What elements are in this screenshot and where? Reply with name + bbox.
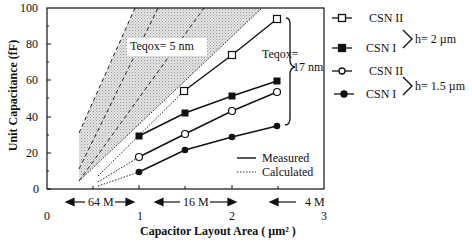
gen-4m-label: 4 M xyxy=(305,195,325,210)
y-tick-40: 40 xyxy=(26,110,38,125)
y-tick-20: 20 xyxy=(26,146,38,161)
y-axis-title: Unit Capacitance (fF) xyxy=(6,31,21,161)
legend-markers xyxy=(332,15,354,98)
x-tick-2: 2 xyxy=(229,209,235,224)
legend-group-h2: h= 2 µm xyxy=(415,32,456,47)
y-tick-0: 0 xyxy=(33,182,39,197)
x-tick-0: 0 xyxy=(44,209,50,224)
x-tick-1: 1 xyxy=(137,209,143,224)
x-ticks xyxy=(93,185,278,189)
legend-csn1-h15: CSN I xyxy=(366,87,396,102)
legend-csn2-h15: CSN II xyxy=(369,64,403,79)
y-tick-80: 80 xyxy=(26,37,38,52)
y-tick-100: 100 xyxy=(20,1,38,16)
legend-csn1-h2: CSN I xyxy=(366,41,396,56)
legend-group-h15: h= 1.5 µm xyxy=(415,79,465,94)
gen-64m-label: 64 M xyxy=(88,195,114,210)
measured-label: Measured xyxy=(262,151,309,166)
legend-braces xyxy=(403,30,412,95)
chart-canvas xyxy=(0,0,472,244)
x-tick-3: 3 xyxy=(321,209,327,224)
legend-csn2-h2: CSN II xyxy=(369,11,403,26)
teqox-17nm-value: 17 nm xyxy=(293,60,323,75)
teqox-5nm-label: Teqox= 5 nm xyxy=(130,39,194,54)
gen-16m-label: 16 M xyxy=(183,195,209,210)
x-axis-title: Capacitor Layout Area ( µm² ) xyxy=(140,224,296,239)
y-tick-60: 60 xyxy=(26,73,38,88)
calculated-label: Calculated xyxy=(262,165,313,180)
